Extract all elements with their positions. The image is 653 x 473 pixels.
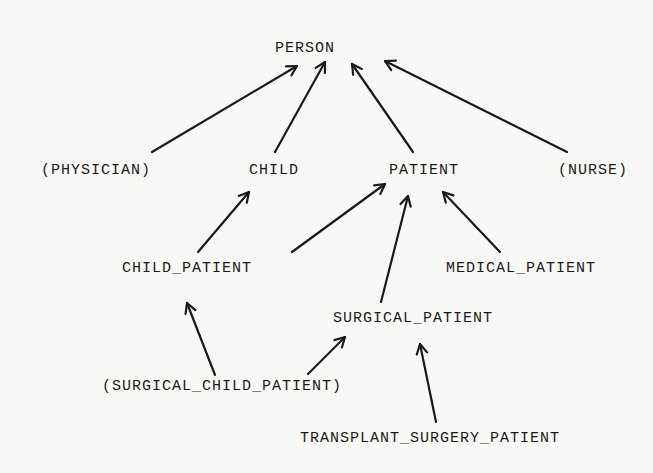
edge-arrow-transplant_surgery_patient-to-surgical_patient [417, 344, 436, 422]
node-person: PERSON [275, 41, 335, 56]
edge-arrow-child_patient-to-patient [292, 184, 385, 252]
node-surgical-child-patient: (SURGICAL_CHILD_PATIENT) [102, 379, 342, 394]
node-child: CHILD [249, 163, 299, 178]
edge-arrow-medical_patient-to-patient [443, 192, 500, 252]
edge-arrow-surgical_patient-to-patient [381, 196, 411, 302]
edges-layer [0, 0, 653, 473]
node-patient: PATIENT [389, 163, 459, 178]
node-physician: (PHYSICIAN) [41, 163, 151, 178]
node-medical-patient: MEDICAL_PATIENT [446, 261, 596, 276]
node-nurse: (NURSE) [558, 163, 628, 178]
is-a-hierarchy-diagram: PERSON (PHYSICIAN) CHILD PATIENT (NURSE)… [0, 0, 653, 473]
node-child-patient: CHILD_PATIENT [122, 261, 252, 276]
edge-arrow-surgical_child_patient-to-surgical_patient [308, 337, 345, 374]
node-transplant-surgery-patient: TRANSPLANT_SURGERY_PATIENT [300, 431, 560, 446]
edge-arrow-nurse-to-person [385, 61, 567, 152]
node-surgical-patient: SURGICAL_PATIENT [333, 311, 493, 326]
edge-arrow-physician-to-person [152, 66, 297, 152]
edge-arrow-patient-to-person [352, 64, 413, 152]
edge-arrow-surgical_child_patient-to-child_patient [186, 303, 215, 375]
edge-arrow-child_patient-to-child [198, 192, 249, 252]
